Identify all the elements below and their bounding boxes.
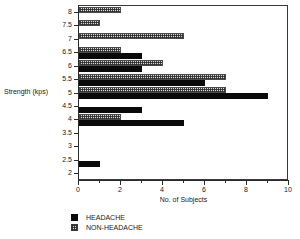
y-tick-label-4-5: 4.5 [46, 102, 72, 109]
x-tick-2 [120, 181, 121, 185]
bar-chart: 87.576.565.554.543.532.52 0246810 Streng… [0, 0, 300, 239]
y-tick-label-6: 6 [46, 62, 72, 69]
y-axis-tick-labels: 87.576.565.554.543.532.52 [44, 0, 72, 239]
bar-headache-5-5 [79, 80, 205, 86]
x-tick-0 [78, 181, 79, 185]
legend-label-non-headache: NON-HEADACHE [86, 223, 143, 232]
x-tick-6 [204, 181, 205, 185]
y-tick-label-2-5: 2.5 [46, 156, 72, 163]
x-tick-label-8: 8 [236, 186, 256, 194]
y-axis-title: Strength (kps) [4, 88, 74, 96]
hatched-gray-swatch [71, 224, 78, 231]
chart-legend: HEADACHENON-HEADACHE [71, 213, 251, 233]
y-tick-label-2: 2 [46, 169, 72, 176]
x-tick-minor-7 [225, 181, 226, 183]
y-tick-label-4: 4 [46, 115, 72, 122]
x-tick-label-10: 10 [278, 186, 298, 194]
legend-item-non-headache: NON-HEADACHE [71, 223, 251, 233]
legend-label-headache: HEADACHE [86, 213, 125, 222]
solid-black-swatch [71, 214, 78, 221]
bar-headache-4 [79, 120, 184, 126]
x-tick-4 [162, 181, 163, 185]
y-tick-label-3: 3 [46, 142, 72, 149]
x-tick-10 [288, 181, 289, 185]
x-tick-minor-1 [99, 181, 100, 183]
legend-item-headache: HEADACHE [71, 213, 251, 223]
y-tick-label-8: 8 [46, 8, 72, 15]
x-tick-label-0: 0 [68, 186, 88, 194]
x-tick-8 [246, 181, 247, 185]
y-tick-label-3-5: 3.5 [46, 129, 72, 136]
y-tick-label-5-5: 5.5 [46, 75, 72, 82]
x-tick-minor-3 [141, 181, 142, 183]
x-tick-minor-5 [183, 181, 184, 183]
bar-headache-6 [79, 66, 142, 72]
y-tick-label-6-5: 6.5 [46, 48, 72, 55]
x-axis-title: No. of Subjects [78, 196, 289, 204]
y-tick-label-7: 7 [46, 35, 72, 42]
bars-container [79, 6, 288, 180]
bar-headache-5 [79, 93, 268, 99]
bar-nonheadache-7 [79, 33, 184, 39]
bar-nonheadache-8 [79, 7, 121, 13]
bar-nonheadache-7-5 [79, 20, 100, 26]
bar-headache-6-5 [79, 53, 142, 59]
bar-headache-2-5 [79, 161, 100, 167]
x-tick-label-2: 2 [110, 186, 130, 194]
x-tick-minor-9 [267, 181, 268, 183]
bar-headache-4-5 [79, 107, 142, 113]
x-tick-label-4: 4 [152, 186, 172, 194]
x-tick-label-6: 6 [194, 186, 214, 194]
y-tick-label-7-5: 7.5 [46, 21, 72, 28]
